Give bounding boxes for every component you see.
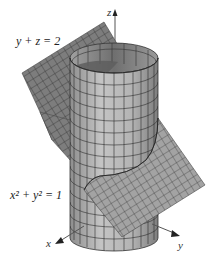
z-axis-label: z xyxy=(107,6,111,18)
y-axis-label: y xyxy=(178,239,183,251)
plane-equation-label: y + z = 2 xyxy=(16,34,60,49)
x-axis-label: x xyxy=(46,237,51,249)
cylinder-plane-figure: y + z = 2 x² + y² = 1 z x y xyxy=(0,0,222,265)
plane-left-lower xyxy=(40,112,70,160)
cylinder-equation-label: x² + y² = 1 xyxy=(10,188,62,203)
